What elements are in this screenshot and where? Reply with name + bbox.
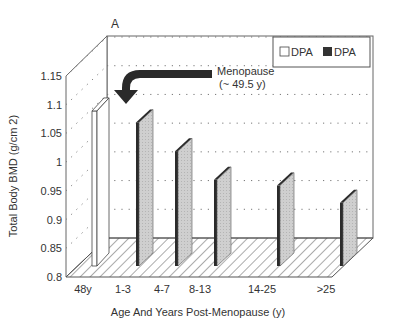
annotation-line1: Menopause <box>217 65 275 77</box>
panel-label: A <box>111 17 119 31</box>
y-tick-label: 1.15 <box>41 70 62 82</box>
bar-chart-3d: Menopause (~ 49.5 y) DPA DPA A 0.80.850.… <box>0 0 396 332</box>
x-tick-label: 48y <box>74 283 92 295</box>
bar-1-3 <box>136 109 153 266</box>
x-tick-label: 4-7 <box>154 283 170 295</box>
bar->25 <box>340 190 357 266</box>
y-tick-label: 1.05 <box>41 127 62 139</box>
x-tick-label: 1-3 <box>115 283 131 295</box>
y-tick-label: 0.85 <box>41 242 62 254</box>
legend: DPA DPA <box>273 37 370 67</box>
bar-4-7 <box>175 138 192 266</box>
y-tick-label: 0.9 <box>47 214 62 226</box>
bar-14-25 <box>277 173 294 266</box>
y-tick-label: 0.95 <box>41 185 62 197</box>
x-tick-label: 8-13 <box>189 283 211 295</box>
x-axis-ticks: 48y1-34-78-1314-25>25 <box>74 283 335 295</box>
x-tick-label: 14-25 <box>248 283 276 295</box>
legend-label-white: DPA <box>291 46 313 58</box>
legend-swatch-white <box>280 47 289 56</box>
bar-48y <box>92 98 109 266</box>
y-axis-title: Total Body BMD (g/cm 2) <box>7 115 19 237</box>
legend-label-dark: DPA <box>334 46 356 58</box>
y-tick-label: 1 <box>56 156 62 168</box>
chart: Menopause (~ 49.5 y) DPA DPA A 0.80.850.… <box>0 0 396 332</box>
x-axis-title: Age And Years Post-Menopause (y) <box>111 306 285 318</box>
y-tick-label: 0.8 <box>47 271 62 283</box>
bar-8-13 <box>214 167 231 266</box>
x-tick-label: >25 <box>317 283 336 295</box>
annotation-line2: (~ 49.5 y) <box>219 78 266 90</box>
y-axis-ticks: 0.80.850.90.9511.051.11.15 <box>41 70 62 283</box>
y-tick-label: 1.1 <box>47 99 62 111</box>
legend-swatch-dark <box>323 47 332 56</box>
